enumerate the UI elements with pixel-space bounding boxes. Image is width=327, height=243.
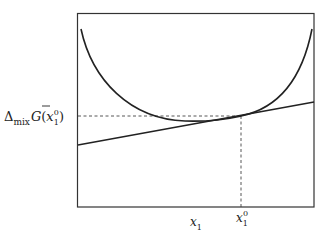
- gibbs-tangent-diagram: ΔmixG(x10) x1 x10: [0, 0, 327, 243]
- x1-label: x1: [190, 215, 202, 232]
- gibbs-curve: [81, 29, 312, 121]
- plot-frame: [78, 14, 315, 208]
- y-axis-label: ΔmixG(x10): [4, 108, 64, 127]
- x1-0-label: x10: [236, 209, 248, 228]
- tangent-line: [78, 102, 314, 145]
